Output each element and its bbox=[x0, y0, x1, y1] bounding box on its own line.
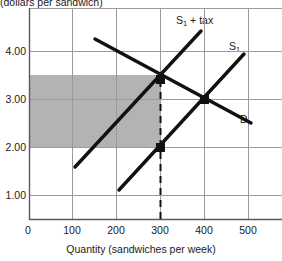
plot-canvas bbox=[0, 0, 282, 261]
marker-no-tax-equilibrium bbox=[200, 95, 209, 104]
marker-tax-equilibrium bbox=[156, 75, 165, 84]
marker-seller-receives bbox=[156, 143, 165, 152]
chart-figure: (dollars per sandwich) 4.00 3.00 2.00 1.… bbox=[0, 0, 282, 261]
tax-revenue-shaded-region bbox=[29, 75, 160, 147]
